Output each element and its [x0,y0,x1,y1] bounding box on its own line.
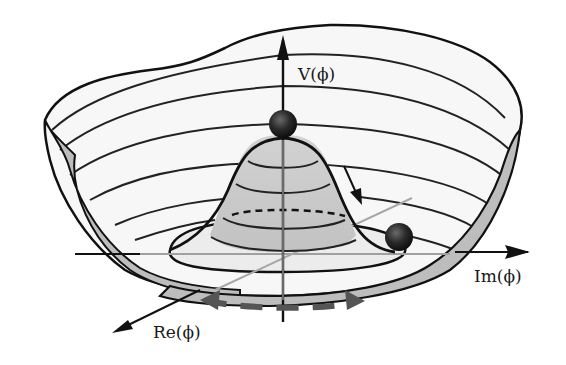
im-axis-label: Im(ϕ) [474,266,522,286]
re-axis-arrowhead [112,320,133,333]
ball-top [269,110,297,138]
im-axis-arrowhead [505,245,530,259]
re-axis-label: Re(ϕ) [153,322,201,342]
ball-bottom [385,223,413,251]
mexican-hat-potential-diagram: V(ϕ) Im(ϕ) Re(ϕ) [0,0,566,365]
v-axis-label: V(ϕ) [297,64,335,84]
